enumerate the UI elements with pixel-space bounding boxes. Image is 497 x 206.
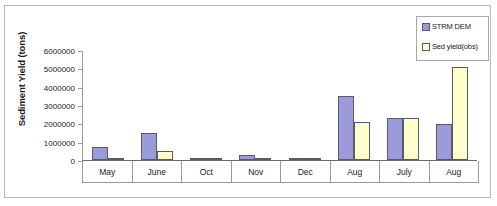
bar (338, 96, 354, 160)
y-axis-tick-label: 5000000 (44, 65, 75, 74)
bar (141, 133, 157, 160)
bar-group (280, 51, 329, 160)
legend-swatch-icon (422, 23, 430, 31)
x-axis-category-label: May (83, 161, 133, 183)
bar (387, 118, 403, 160)
x-axis-category-label: Aug (331, 161, 381, 183)
x-axis-category-label: Dec (281, 161, 331, 183)
chart-legend: STRM DEMSed yield(obs) (416, 16, 489, 61)
x-axis-category-label: Nov (232, 161, 282, 183)
bar (108, 158, 124, 160)
legend-item-label: Sed yield(obs) (432, 42, 478, 51)
legend-item[interactable]: STRM DEM (422, 22, 484, 31)
bar (206, 158, 222, 160)
y-axis-tick-label: 6000000 (44, 47, 75, 56)
bar (190, 158, 206, 160)
bar (92, 147, 108, 160)
y-axis-tick-label: 3000000 (44, 102, 75, 111)
bar-group (379, 51, 428, 160)
bar-group (182, 51, 231, 160)
bar (354, 122, 370, 160)
bar (452, 67, 468, 160)
plot-area: 0100000020000003000000400000050000006000… (82, 51, 477, 161)
y-axis-tick-label: 0 (71, 157, 75, 166)
chart-frame: Sediment Yield (tons) 010000002000000300… (4, 5, 491, 198)
bar (289, 158, 305, 160)
y-axis-tick-label: 1000000 (44, 138, 75, 147)
legend-item-label: STRM DEM (432, 22, 471, 31)
bar-group (329, 51, 378, 160)
x-axis-category-labels: MayJuneOctNovDecAugJulyAug (82, 161, 479, 183)
x-axis-category-label: Aug (430, 161, 480, 183)
bars-layer (83, 51, 477, 160)
y-axis-tick (78, 106, 82, 107)
y-axis-tick-label: 2000000 (44, 120, 75, 129)
bar-group (132, 51, 181, 160)
y-axis-tick (78, 69, 82, 70)
bar (403, 118, 419, 160)
bar-group (428, 51, 477, 160)
bar (239, 155, 255, 160)
bar (157, 151, 173, 160)
y-axis-tick (78, 51, 82, 52)
y-axis-tick (78, 143, 82, 144)
x-axis-category-label: Oct (182, 161, 232, 183)
x-axis-category-label: July (380, 161, 430, 183)
bar (255, 158, 271, 160)
y-axis-title: Sediment Yield (tons) (16, 19, 30, 139)
bar-group (83, 51, 132, 160)
bar (305, 158, 321, 160)
bar-group (231, 51, 280, 160)
y-axis-tick-label: 4000000 (44, 83, 75, 92)
x-axis-category-label: June (133, 161, 183, 183)
legend-swatch-icon (422, 43, 430, 51)
bar (436, 124, 452, 160)
y-axis-tick (78, 88, 82, 89)
y-axis-tick (78, 124, 82, 125)
legend-item[interactable]: Sed yield(obs) (422, 42, 484, 51)
